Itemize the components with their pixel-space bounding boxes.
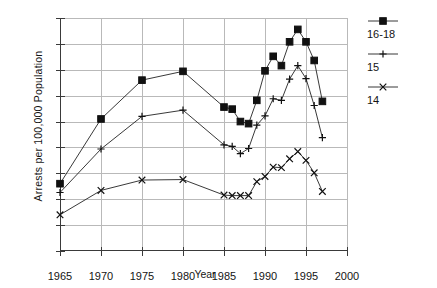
x-tick-mark (347, 247, 348, 256)
y-axis-label: Arrests per 100,000 Population (32, 26, 44, 226)
x-tick-label-2000: 2000 (324, 270, 370, 282)
series-line (60, 29, 322, 183)
legend-label: 14 (367, 94, 434, 106)
x-tick-label-1985: 1985 (201, 270, 247, 282)
data-point-marker-cross (319, 188, 326, 195)
data-point-marker-square (262, 68, 269, 75)
legend-marker-filled-square-icon (366, 14, 400, 28)
legend-marker-plus-icon (366, 47, 400, 61)
data-point-marker-plus (294, 62, 301, 69)
data-point-marker-plus (245, 145, 252, 152)
data-point-marker-plus (270, 95, 277, 102)
data-point-marker-square (295, 26, 302, 33)
data-point-marker-square (180, 68, 187, 75)
series-line (60, 152, 322, 215)
chart-legend: 16-181514 (366, 14, 434, 113)
legend-label: 15 (367, 61, 434, 73)
data-point-marker-plus (379, 50, 386, 57)
legend-item-15[interactable]: 15 (366, 47, 434, 73)
data-point-marker-cross (303, 157, 310, 164)
gridline-vertical (347, 18, 348, 251)
data-point-marker-plus (319, 134, 326, 141)
data-point-marker-square (57, 180, 64, 187)
data-point-marker-plus (302, 75, 309, 82)
data-series-layer (60, 18, 347, 251)
data-point-marker-plus (311, 102, 318, 109)
series-15 (56, 62, 326, 196)
data-point-marker-plus (286, 75, 293, 82)
legend-item-16-18[interactable]: 16-18 (366, 14, 434, 40)
x-tick-label-1965: 1965 (37, 270, 83, 282)
data-point-marker-square (380, 18, 387, 25)
data-point-marker-cross (286, 156, 293, 163)
x-tick-label-1980: 1980 (160, 270, 206, 282)
data-point-marker-square (278, 62, 285, 69)
data-point-marker-square (270, 53, 277, 60)
data-point-marker-square (286, 39, 293, 46)
data-point-marker-cross (98, 187, 105, 194)
data-point-marker-cross (311, 170, 318, 177)
data-point-marker-cross (262, 173, 269, 180)
chart-container: Arrests per 100,000 Population Year 0501… (0, 0, 437, 288)
data-point-marker-square (98, 116, 105, 123)
x-tick-label-1990: 1990 (242, 270, 288, 282)
x-tick-label-1970: 1970 (78, 270, 124, 282)
legend-item-14[interactable]: 14 (366, 80, 434, 106)
legend-label: 16-18 (367, 28, 434, 40)
data-point-marker-square (237, 118, 244, 125)
data-point-marker-square (254, 97, 261, 104)
data-point-marker-square (229, 106, 236, 113)
data-point-marker-plus (278, 97, 285, 104)
legend-marker-cross-icon (366, 80, 400, 94)
data-point-marker-cross (295, 148, 302, 155)
series-14 (57, 148, 326, 218)
data-point-marker-cross (57, 211, 64, 218)
data-point-marker-square (311, 57, 318, 64)
plot-area: 050100150200250300350400450 196519701975… (60, 18, 347, 251)
data-point-marker-square (139, 77, 146, 84)
data-point-marker-square (319, 98, 326, 105)
data-point-marker-cross (254, 178, 261, 185)
series-line (60, 66, 322, 193)
x-tick-label-1975: 1975 (119, 270, 165, 282)
data-point-marker-square (221, 104, 228, 111)
data-point-marker-square (303, 39, 310, 46)
x-tick-label-1995: 1995 (283, 270, 329, 282)
data-point-marker-square (245, 120, 252, 127)
